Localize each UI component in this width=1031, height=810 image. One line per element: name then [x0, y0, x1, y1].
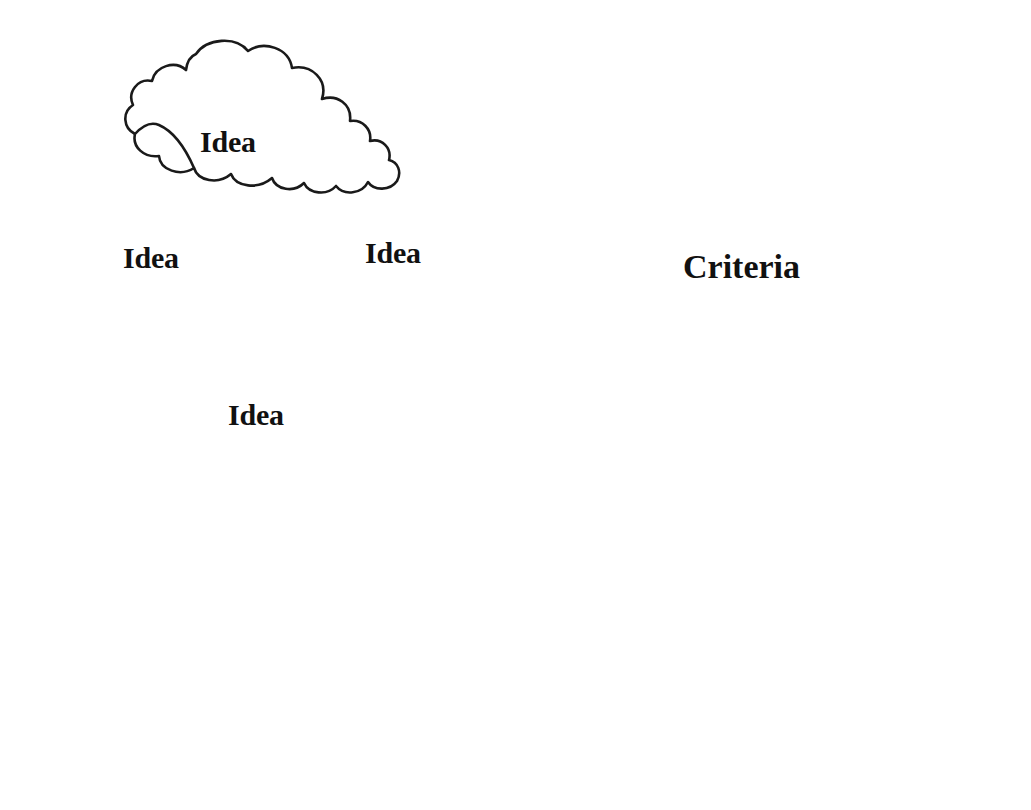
diagram-canvas: Idea Idea Idea Idea Criteria: [0, 0, 1031, 810]
idea-label-bottom: Idea: [228, 398, 284, 432]
idea-label-left: Idea: [123, 241, 179, 275]
criteria-title: Criteria: [683, 248, 800, 286]
diagram-scene: [0, 0, 1031, 810]
idea-cloud-top[interactable]: [125, 41, 399, 193]
idea-label-top: Idea: [200, 125, 256, 159]
idea-label-middle-right: Idea: [365, 236, 421, 270]
cloud-outline: [125, 41, 399, 193]
